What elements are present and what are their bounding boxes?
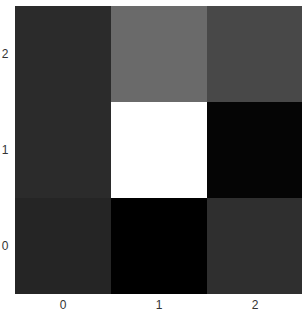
- heatmap-cell-x0-y0: [15, 198, 111, 294]
- heatmap-cell-x0-y2: [15, 6, 111, 102]
- y-tick-label-2: 2: [0, 47, 10, 61]
- y-tick-label-1: 1: [0, 143, 10, 157]
- heatmap-cell-x1-y2: [111, 6, 207, 102]
- heatmap-cell-x2-y0: [207, 198, 302, 294]
- heatmap-cell-x2-y2: [207, 6, 302, 102]
- x-tick-label-0: 0: [53, 298, 73, 312]
- heatmap-cell-x0-y1: [15, 102, 111, 198]
- x-tick-label-1: 1: [149, 298, 169, 312]
- heatmap-cell-x1-y1: [111, 102, 207, 198]
- heatmap-cell-x2-y1: [207, 102, 302, 198]
- heatmap-cell-x1-y0: [111, 198, 207, 294]
- heatmap-plot-area: [15, 6, 302, 294]
- y-tick-label-0: 0: [0, 239, 10, 253]
- x-tick-label-2: 2: [245, 298, 265, 312]
